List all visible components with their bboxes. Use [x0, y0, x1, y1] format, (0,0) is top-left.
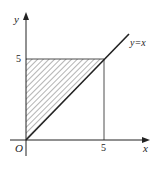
coordinate-diagram [0, 0, 156, 169]
origin-label: O [15, 143, 23, 154]
y-axis-arrow-icon [23, 12, 29, 20]
y-axis-label: y [14, 14, 19, 25]
x-tick-5: 5 [101, 143, 106, 153]
y-tick-5: 5 [16, 54, 21, 64]
line-label: y=x [130, 38, 146, 48]
x-axis-label: x [143, 143, 148, 154]
